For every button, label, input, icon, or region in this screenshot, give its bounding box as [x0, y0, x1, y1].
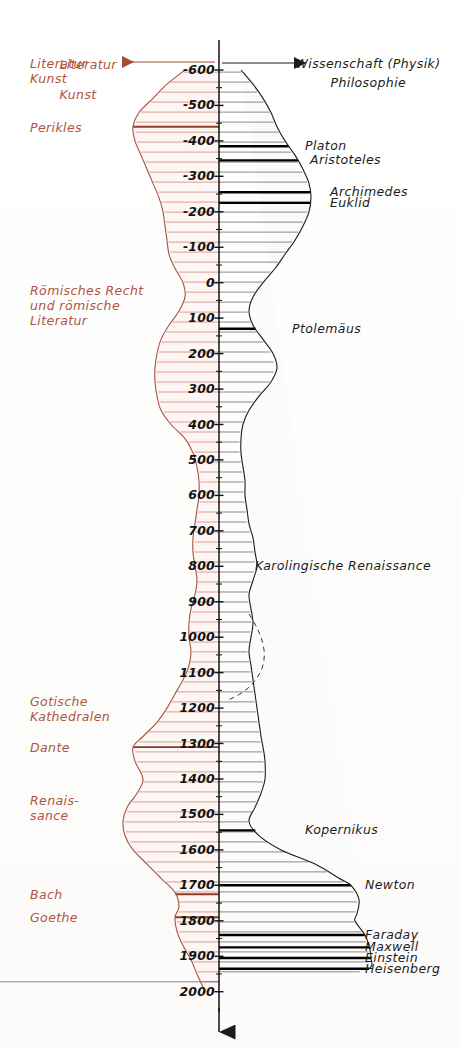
axis-tick-label: 1600 — [175, 842, 215, 857]
right-label-kopernikus: Kopernikus — [305, 822, 378, 837]
right-label-euklid: Euklid — [330, 195, 370, 210]
axis-tick-label: 1500 — [175, 806, 215, 821]
axis-tick-label: 1400 — [175, 771, 215, 786]
axis-tick-label: -200 — [175, 204, 215, 219]
left-label-dante: Dante — [30, 740, 70, 755]
header-art-label: Kunst — [60, 87, 97, 102]
header-philosophy-label: Philosophie — [331, 75, 407, 90]
axis-tick-label: 1700 — [175, 877, 215, 892]
left-label-roemisches-recht: Römisches Recht und römische Literatur — [30, 283, 144, 328]
axis-tick-label: 1000 — [175, 629, 215, 644]
axis-tick-label: 1300 — [175, 736, 215, 751]
axis-tick-label: -600 — [175, 62, 215, 77]
axis-tick-label: 100 — [175, 310, 215, 325]
left-label-perikles: Perikles — [30, 120, 82, 135]
right-label-karolingische-renaissance: Karolingische Renaissance — [255, 558, 431, 573]
axis-tick-label: 600 — [175, 487, 215, 502]
left-label-bach: Bach — [30, 887, 63, 902]
axis-tick-label: 1100 — [175, 665, 215, 680]
axis-tick-label: -300 — [175, 168, 215, 183]
right-label-heisenberg: Heisenberg — [365, 961, 440, 976]
axis-tick-label: 400 — [175, 417, 215, 432]
axis-tick-label: 800 — [175, 558, 215, 573]
axis-tick-label: -100 — [175, 239, 215, 254]
right-label-ptolemaeus: Ptolemäus — [292, 321, 361, 336]
right-label-aristoteles: Aristoteles — [310, 152, 381, 167]
axis-tick-label: -500 — [175, 97, 215, 112]
figure-canvas: Literatur Kunst Wissenschaft (Physik) Ph… — [0, 0, 461, 1047]
axis-tick-label: 900 — [175, 594, 215, 609]
axis-tick-label: -400 — [175, 133, 215, 148]
axis-tick-label: 1900 — [175, 948, 215, 963]
axis-tick-label: 200 — [175, 346, 215, 361]
header-philosophy: Philosophie — [313, 60, 406, 105]
left-label-goethe: Goethe — [30, 910, 78, 925]
right-label-newton: Newton — [365, 877, 415, 892]
left-label-literatur-kunst: Literatur Kunst — [30, 56, 87, 86]
axis-tick-label: 2000 — [175, 984, 215, 999]
axis-tick-label: 0 — [175, 275, 215, 290]
axis-tick-label: 500 — [175, 452, 215, 467]
axis-tick-label: 700 — [175, 523, 215, 538]
left-label-renaissance: Renais- sance — [30, 793, 79, 823]
right-label-platon: Platon — [305, 138, 347, 153]
axis-tick-label: 1800 — [175, 913, 215, 928]
axis-tick-label: 1200 — [175, 700, 215, 715]
axis-tick-label: 300 — [175, 381, 215, 396]
left-label-gotische-kathedralen: Gotische Kathedralen — [30, 694, 110, 724]
